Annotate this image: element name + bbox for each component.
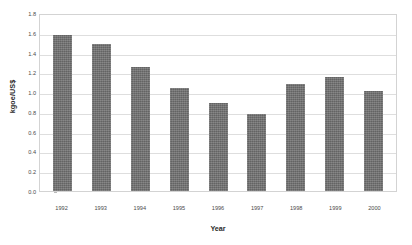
x-axis-tick-labels: 199219931994199519961997199819992000 [39,196,397,210]
bar[interactable] [53,35,72,191]
bar[interactable] [92,44,111,191]
y-axis-title-text: kgoe/US$ [9,79,18,113]
y-axis-tick-mark [54,192,57,193]
x-axis-tick-label: 1999 [329,205,341,211]
bar-slot [199,15,238,191]
y-axis-tick-label: 1.2 [18,70,36,76]
bar-slot [354,15,393,191]
x-axis-tick-label: 1996 [212,205,224,211]
bar-chart-figure: kgoe/US$ 1.81.61.41.21.00.80.60.40.20.0 … [0,0,412,245]
bar[interactable] [209,103,228,191]
x-tick-slot: 1995 [159,196,198,210]
bar-slot [237,15,276,191]
y-axis-tick-label: 0.2 [18,169,36,175]
bar-slot [43,15,82,191]
y-axis-tick-label: 1.8 [18,11,36,17]
bar[interactable] [170,88,189,191]
y-axis-tick-label: 0.0 [18,189,36,195]
x-axis-tick-label: 1997 [251,205,263,211]
y-axis-tick-label: 0.8 [18,110,36,116]
x-axis-title: Year [39,224,397,233]
y-axis-tick-label: 1.0 [18,90,36,96]
x-tick-slot: 2000 [355,196,394,210]
bar-slot [160,15,199,191]
y-axis-tick-labels: 1.81.61.41.21.00.80.60.40.20.0 [18,14,36,192]
x-axis-tick-label: 1998 [290,205,302,211]
x-axis-tick-label: 2000 [368,205,380,211]
x-tick-slot: 1999 [316,196,355,210]
x-axis-tick-label: 1995 [173,205,185,211]
x-tick-slot: 1996 [198,196,237,210]
bar-slot [315,15,354,191]
x-axis-tick-label: 1992 [55,205,67,211]
x-tick-slot: 1992 [42,196,81,210]
x-tick-slot: 1998 [277,196,316,210]
bar[interactable] [325,77,344,191]
x-axis-tick-label: 1994 [134,205,146,211]
x-tick-slot: 1994 [120,196,159,210]
y-axis-tick-label: 1.4 [18,51,36,57]
bar-slot [82,15,121,191]
bar-slot [276,15,315,191]
x-axis-tick-label: 1993 [94,205,106,211]
bar-slot [121,15,160,191]
bar[interactable] [131,67,150,191]
y-axis-tick-label: 1.6 [18,31,36,37]
plot-area [39,14,397,192]
bar[interactable] [247,114,266,191]
x-tick-slot: 1997 [238,196,277,210]
bar[interactable] [286,84,305,191]
bars-container [40,15,396,191]
x-tick-slot: 1993 [81,196,120,210]
y-axis-tick-label: 0.6 [18,130,36,136]
y-axis-tick-label: 0.4 [18,149,36,155]
bar[interactable] [364,91,383,191]
